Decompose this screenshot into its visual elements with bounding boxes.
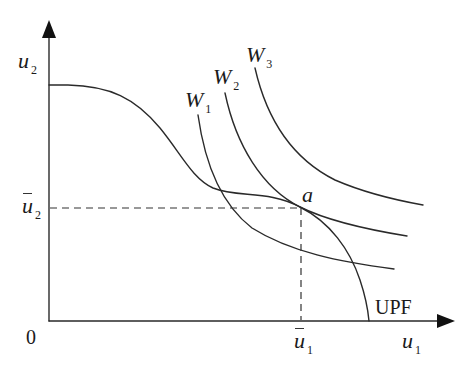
y-axis-arrow-icon (42, 20, 56, 38)
upf-curve (49, 85, 369, 321)
x-axis-label: u1 (402, 330, 421, 352)
tangency-point-label: a (302, 184, 313, 206)
u1-bar-label: u1 (294, 330, 313, 352)
u2-bar-label: u2 (22, 195, 41, 217)
x-axis-arrow-icon (437, 314, 455, 328)
upf-label: UPF (375, 297, 412, 317)
w2-label: W2 (213, 66, 239, 88)
y-axis-label: u2 (18, 50, 37, 72)
w3-curve (255, 68, 423, 205)
w2-curve (225, 93, 407, 236)
w3-label: W3 (246, 44, 272, 66)
w1-label: W1 (185, 89, 211, 111)
origin-label: 0 (26, 327, 36, 347)
